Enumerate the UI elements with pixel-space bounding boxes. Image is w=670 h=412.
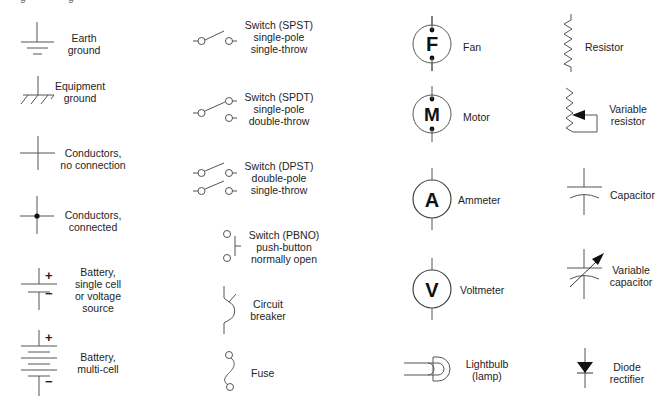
earth-ground-icon — [20, 22, 56, 58]
battery-plus-sign: + — [45, 268, 53, 283]
motor-label: Motor — [463, 111, 503, 123]
fuse-label: Fuse — [251, 367, 291, 379]
conductors-no-connection-icon — [20, 136, 56, 172]
conductors-connected-label: Conductors, connected — [58, 209, 128, 233]
switch-spdt-icon — [193, 94, 241, 124]
cutoff-text-fragment: g — [68, 0, 74, 3]
svg-text:V: V — [425, 279, 439, 301]
switch-dpst-label: Switch (DPST) double-pole single-throw — [244, 160, 314, 196]
svg-text:A: A — [425, 189, 439, 211]
variable-resistor-label: Variable resistor — [605, 103, 651, 127]
battery-plus-sign: + — [45, 330, 53, 345]
ammeter-icon: A — [410, 168, 454, 230]
capacitor-label: Capacitor — [610, 189, 660, 201]
battery-multi-cell-label: Battery, multi-cell — [74, 351, 122, 375]
switch-pbno-label: Switch (PBNO) push-button normally open — [246, 229, 322, 265]
diode-icon — [576, 348, 600, 390]
battery-minus-sign: − — [45, 286, 53, 301]
switch-pbno-icon — [222, 228, 246, 264]
resistor-label: Resistor — [585, 41, 635, 53]
switch-spdt-label: Switch (SPDT) single-pole double-throw — [244, 91, 314, 127]
switch-spst-icon — [193, 28, 241, 48]
conductors-connected-icon — [20, 196, 56, 236]
variable-resistor-icon — [563, 88, 607, 136]
fan-label: Fan — [463, 41, 503, 53]
circuit-breaker-icon — [220, 286, 244, 336]
lightbulb-icon — [404, 354, 452, 384]
svg-text:M: M — [424, 104, 440, 125]
variable-capacitor-label: Variable capacitor — [606, 264, 656, 288]
variable-capacitor-icon — [566, 249, 610, 303]
earth-ground-label: Earth ground — [60, 32, 108, 56]
diode-label: Diode rectifier — [606, 361, 648, 385]
voltmeter-label: Voltmeter — [460, 284, 515, 296]
switch-dpst-icon — [193, 161, 241, 197]
fuse-icon — [222, 350, 242, 392]
battery-multi-cell-icon — [20, 330, 60, 412]
conductors-no-connection-label: Conductors, no connection — [58, 147, 128, 171]
motor-icon: M — [410, 86, 454, 142]
ammeter-label: Ammeter — [458, 194, 508, 206]
resistor-icon — [562, 14, 578, 74]
battery-single-cell-icon — [20, 268, 60, 312]
switch-spst-label: Switch (SPST) single-pole single-throw — [244, 19, 314, 55]
battery-single-cell-label: Battery, single cell or voltage source — [70, 266, 126, 314]
fan-icon: F — [410, 16, 454, 72]
equipment-ground-label: Equipment ground — [52, 80, 108, 104]
battery-minus-sign: − — [45, 374, 53, 389]
voltmeter-icon: V — [410, 258, 454, 320]
cutoff-text-fragment: g — [20, 0, 26, 3]
lightbulb-label: Lightbulb (lamp) — [462, 358, 512, 382]
capacitor-icon — [566, 168, 606, 218]
circuit-breaker-label: Circuit breaker — [248, 298, 288, 322]
svg-text:F: F — [426, 33, 438, 55]
